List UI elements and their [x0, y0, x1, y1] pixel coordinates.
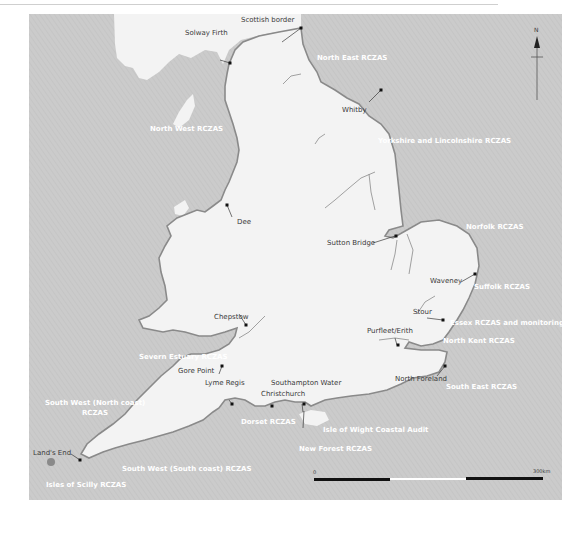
- isles-of-scilly: [47, 458, 55, 466]
- map-frame: Scottish border Solway Firth Whitby Dee …: [29, 14, 562, 500]
- label-region-essex: Essex RCZAS and monitoring: [450, 320, 562, 327]
- label-region-yorkshire-lincolnshire: Yorkshire and Lincolnshire RCZAS: [378, 138, 511, 145]
- label-waveney: Waveney: [430, 278, 462, 285]
- top-rule: [0, 4, 498, 5]
- label-gore-point: Gore Point: [178, 368, 214, 375]
- label-scottish-border: Scottish border: [241, 17, 294, 24]
- label-region-isles-of-scilly: Isles of Scilly RCZAS: [46, 482, 126, 489]
- label-christchurch: Christchurch: [261, 391, 305, 398]
- north-arrow-label: N: [534, 27, 539, 33]
- label-region-dorset: Dorset RCZAS: [241, 419, 296, 426]
- label-purfleet-erith: Purfleet/Erith: [367, 328, 413, 335]
- scale-end-label: 300km: [533, 469, 550, 474]
- label-region-north-east: North East RCZAS: [317, 55, 387, 62]
- label-southampton-water: Southampton Water: [271, 380, 341, 387]
- label-north-foreland: North Foreland: [395, 376, 447, 383]
- label-stour: Stour: [413, 309, 432, 316]
- label-region-south-west-north-line1: South West (North coast): [45, 400, 145, 407]
- label-region-north-kent: North Kent RCZAS: [443, 338, 515, 345]
- label-region-new-forest: New Forest RCZAS: [299, 446, 372, 453]
- label-region-south-east: South East RCZAS: [446, 384, 517, 391]
- label-sutton-bridge: Sutton Bridge: [327, 240, 375, 247]
- label-lyme-regis: Lyme Regis: [205, 380, 245, 387]
- label-region-isle-of-wight: Isle of Wight Coastal Audit: [323, 427, 428, 434]
- label-region-north-west: North West RCZAS: [150, 126, 223, 133]
- scale-start-label: 0: [313, 470, 316, 475]
- map-svg: [29, 14, 562, 500]
- label-region-severn-estuary: Severn Estuary RCZAS: [139, 354, 228, 361]
- label-solway-firth: Solway Firth: [185, 30, 228, 37]
- label-whitby: Whitby: [342, 107, 367, 114]
- label-dee: Dee: [237, 219, 251, 226]
- label-region-suffolk: Suffolk RCZAS: [474, 284, 530, 291]
- label-chepstow: Chepstow: [214, 314, 248, 321]
- label-lands-end: Land's End: [33, 450, 71, 457]
- label-region-south-west-south: South West (South coast) RCZAS: [122, 466, 251, 473]
- label-region-south-west-north-line2: RCZAS: [45, 410, 145, 417]
- label-region-norfolk: Norfolk RCZAS: [466, 224, 524, 231]
